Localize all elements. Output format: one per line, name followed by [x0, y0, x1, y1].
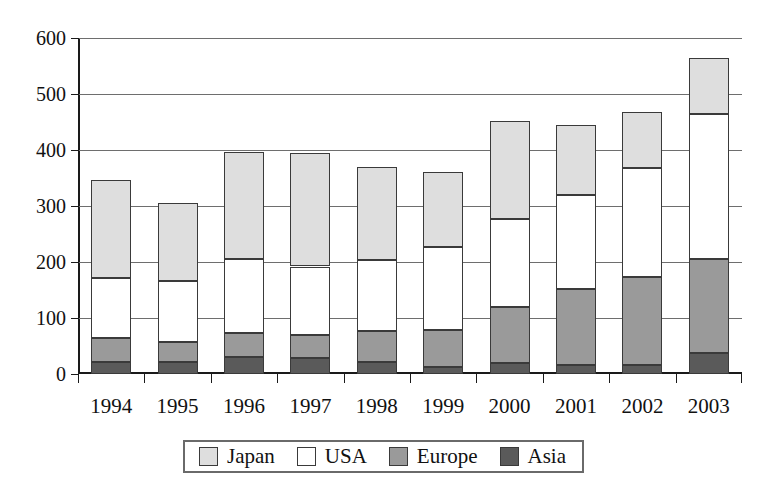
- bar-group[interactable]: [224, 152, 264, 374]
- legend-swatch-asia: [500, 447, 519, 466]
- legend-label: USA: [325, 446, 367, 467]
- bar-segment-asia[interactable]: [689, 353, 729, 374]
- bar-segment-usa[interactable]: [290, 267, 330, 336]
- x-axis-tick-label: 2003: [688, 396, 730, 417]
- bar-series-container: [78, 38, 742, 374]
- x-axis-tick: [410, 374, 411, 383]
- bar-segment-japan[interactable]: [622, 112, 662, 167]
- bar-segment-usa[interactable]: [423, 247, 463, 329]
- bar-segment-europe[interactable]: [556, 289, 596, 365]
- bar-group[interactable]: [158, 203, 198, 374]
- bar-segment-usa[interactable]: [490, 219, 530, 307]
- bar-segment-asia[interactable]: [158, 362, 198, 374]
- bar-segment-asia[interactable]: [556, 365, 596, 374]
- bar-segment-europe[interactable]: [622, 277, 662, 365]
- y-axis-tick-label: 100: [36, 308, 66, 328]
- bar-segment-europe[interactable]: [290, 335, 330, 357]
- bar-group[interactable]: [357, 167, 397, 374]
- bar-segment-europe[interactable]: [689, 259, 729, 354]
- y-axis-tick-label: 0: [56, 364, 66, 384]
- bar-segment-japan[interactable]: [290, 153, 330, 267]
- plot-area: [78, 38, 742, 374]
- x-axis-tick: [277, 374, 278, 383]
- bar-segment-usa[interactable]: [556, 195, 596, 290]
- x-axis-tick: [741, 374, 742, 383]
- bar-segment-usa[interactable]: [91, 278, 131, 338]
- bar-segment-asia[interactable]: [290, 358, 330, 374]
- x-axis-tick: [78, 374, 79, 383]
- x-axis-tick-label: 1998: [356, 396, 398, 417]
- y-axis-tick-label: 500: [36, 84, 66, 104]
- y-axis-tick-label: 200: [36, 252, 66, 272]
- x-axis-tick: [543, 374, 544, 383]
- bar-group[interactable]: [622, 112, 662, 374]
- bar-segment-japan[interactable]: [556, 125, 596, 195]
- bar-segment-japan[interactable]: [357, 167, 397, 259]
- legend-swatch-japan: [199, 447, 218, 466]
- x-axis-tick: [344, 374, 345, 383]
- y-axis-tick-label: 300: [36, 196, 66, 216]
- bar-segment-japan[interactable]: [490, 121, 530, 219]
- bar-segment-usa[interactable]: [357, 260, 397, 332]
- bar-segment-asia[interactable]: [357, 362, 397, 374]
- legend-label: Europe: [417, 446, 478, 467]
- bar-segment-japan[interactable]: [423, 172, 463, 247]
- bar-segment-usa[interactable]: [622, 168, 662, 277]
- bar-group[interactable]: [91, 180, 131, 374]
- bar-group[interactable]: [689, 58, 729, 374]
- legend-swatch-europe: [389, 447, 408, 466]
- legend-item-europe[interactable]: Europe: [389, 446, 478, 467]
- x-axis-tick: [676, 374, 677, 383]
- x-axis-tick-label: 1994: [90, 396, 132, 417]
- bar-segment-europe[interactable]: [224, 333, 264, 358]
- legend-label: Asia: [528, 446, 567, 467]
- bar-group[interactable]: [290, 153, 330, 374]
- x-axis-tick: [476, 374, 477, 383]
- bar-segment-usa[interactable]: [689, 114, 729, 259]
- bar-segment-europe[interactable]: [357, 331, 397, 362]
- bar-segment-japan[interactable]: [689, 58, 729, 113]
- x-axis-tick-label: 1995: [157, 396, 199, 417]
- x-axis-tick: [211, 374, 212, 383]
- x-axis-tick-label: 2002: [621, 396, 663, 417]
- bar-segment-asia[interactable]: [622, 365, 662, 374]
- bar-group[interactable]: [556, 125, 596, 374]
- bar-segment-usa[interactable]: [224, 259, 264, 333]
- x-axis-tick: [609, 374, 610, 383]
- bar-segment-usa[interactable]: [158, 281, 198, 341]
- x-axis-tick-label: 2001: [555, 396, 597, 417]
- y-axis-tick-label: 400: [36, 140, 66, 160]
- x-axis-tick-label: 1999: [422, 396, 464, 417]
- bar-segment-europe[interactable]: [423, 330, 463, 367]
- bar-segment-asia[interactable]: [224, 357, 264, 374]
- x-axis-tick: [144, 374, 145, 383]
- legend-item-japan[interactable]: Japan: [199, 446, 275, 467]
- legend-item-asia[interactable]: Asia: [500, 446, 567, 467]
- bar-segment-japan[interactable]: [91, 180, 131, 277]
- x-axis-tick-label: 1997: [289, 396, 331, 417]
- bar-segment-asia[interactable]: [423, 367, 463, 374]
- bar-segment-asia[interactable]: [91, 362, 131, 374]
- bar-group[interactable]: [490, 121, 530, 374]
- bar-segment-europe[interactable]: [490, 307, 530, 363]
- legend-item-usa[interactable]: USA: [297, 446, 367, 467]
- x-axis-tick-label: 1996: [223, 396, 265, 417]
- chart-legend: JapanUSAEuropeAsia: [183, 440, 584, 473]
- bar-segment-asia[interactable]: [490, 363, 530, 374]
- bar-group[interactable]: [423, 172, 463, 374]
- bar-segment-japan[interactable]: [158, 203, 198, 281]
- bar-segment-europe[interactable]: [158, 342, 198, 363]
- y-axis-tick-label: 600: [36, 28, 66, 48]
- bar-segment-europe[interactable]: [91, 338, 131, 362]
- stacked-bar-chart: 0100200300400500600 19941995199619971998…: [0, 0, 760, 488]
- x-axis-tick-label: 2000: [489, 396, 531, 417]
- legend-swatch-usa: [297, 447, 316, 466]
- legend-label: Japan: [227, 446, 275, 467]
- bar-segment-japan[interactable]: [224, 152, 264, 258]
